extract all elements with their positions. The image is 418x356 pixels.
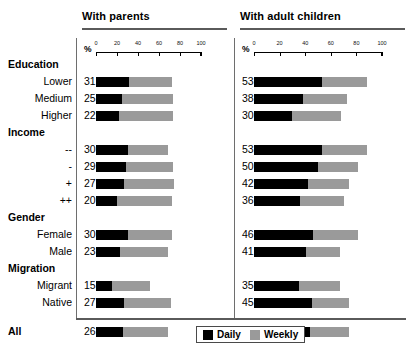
bar — [254, 281, 382, 291]
axis-unit-left: % — [84, 44, 92, 54]
bar — [254, 145, 382, 155]
bar-segment-weekly — [123, 327, 168, 337]
bar-value-label: 30 — [84, 228, 96, 240]
bar-value-label: 25 — [84, 92, 96, 104]
bar-segment-daily — [254, 94, 303, 104]
bar-segment-weekly — [318, 162, 358, 172]
bar — [254, 196, 382, 206]
axis-line — [96, 52, 201, 53]
row-label: Lower — [0, 75, 72, 87]
bar-segment-weekly — [124, 179, 173, 189]
bar — [254, 162, 382, 172]
bar — [96, 298, 201, 308]
bar-segment-daily — [96, 247, 120, 257]
x-axis-left: 020406080100 — [96, 40, 201, 58]
bar-value-label: 15 — [84, 279, 96, 291]
bar-segment-weekly — [308, 179, 349, 189]
row-group-label: Income — [8, 126, 98, 138]
bar-segment-daily — [96, 298, 124, 308]
stacked-bar-chart: With parents With adult children % % 020… — [0, 0, 418, 356]
bar-value-label: 31 — [84, 75, 96, 87]
bar-segment-daily — [254, 298, 312, 308]
panel-separator-left — [76, 38, 77, 318]
bar — [254, 77, 382, 87]
bar-value-label: 36 — [242, 194, 254, 206]
axis-tick-label: 40 — [135, 40, 141, 46]
bar-segment-daily — [96, 94, 122, 104]
bar-segment-daily — [254, 162, 318, 172]
axis-tick-label: 20 — [277, 40, 283, 46]
bar-value-label: 23 — [84, 245, 96, 257]
bar-segment-weekly — [120, 247, 168, 257]
bar-segment-daily — [254, 111, 292, 121]
bar — [254, 111, 382, 121]
bar-segment-daily — [254, 196, 300, 206]
bar-value-label: 26 — [84, 325, 96, 337]
bar-segment-weekly — [303, 94, 348, 104]
bar — [96, 77, 201, 87]
axis-tick-label: 40 — [302, 40, 308, 46]
bar — [96, 145, 201, 155]
row-label: - — [0, 160, 72, 172]
axis-tick — [159, 52, 160, 56]
bar-segment-daily — [254, 247, 306, 257]
bar-segment-daily — [96, 162, 126, 172]
panel-rule-right — [240, 28, 405, 30]
axis-tick — [201, 52, 202, 56]
axis-tick — [382, 52, 383, 56]
bar-segment-weekly — [322, 145, 367, 155]
row-label: ++ — [0, 194, 72, 206]
bar — [96, 327, 201, 337]
bar-segment-daily — [96, 196, 117, 206]
bar — [254, 298, 382, 308]
row-label: Higher — [0, 109, 72, 121]
panel-separator-right — [234, 38, 235, 318]
bar-segment-daily — [254, 281, 299, 291]
bar-value-label: 27 — [84, 177, 96, 189]
bar — [96, 162, 201, 172]
bottom-rule — [76, 318, 406, 320]
bar-segment-weekly — [310, 327, 348, 337]
row-group-label: Education — [8, 58, 98, 70]
row-group-label: Gender — [8, 211, 98, 223]
row-label: Male — [0, 245, 72, 257]
bar — [96, 111, 201, 121]
axis-tick-label: 20 — [114, 40, 120, 46]
legend: Daily Weekly — [196, 326, 305, 343]
bar-segment-weekly — [117, 196, 172, 206]
bar-value-label: 53 — [242, 143, 254, 155]
bar — [254, 94, 382, 104]
row-label: -- — [0, 143, 72, 155]
bar — [96, 179, 201, 189]
axis-tick — [117, 52, 118, 56]
axis-tick — [331, 52, 332, 56]
axis-tick — [254, 52, 255, 56]
bar-segment-weekly — [312, 298, 349, 308]
bar — [96, 196, 201, 206]
axis-tick-label: 60 — [328, 40, 334, 46]
legend-item-daily: Daily — [203, 329, 241, 340]
bar — [96, 230, 201, 240]
axis-tick-label: 80 — [177, 40, 183, 46]
row-label: Migrant — [0, 279, 72, 291]
bar-segment-daily — [254, 179, 308, 189]
legend-swatch-daily — [203, 330, 213, 340]
axis-tick-label: 100 — [196, 40, 205, 46]
bar-value-label: 20 — [84, 194, 96, 206]
bar-value-label: 38 — [242, 92, 254, 104]
row-label: Native — [0, 296, 72, 308]
axis-tick-label: 0 — [252, 40, 255, 46]
bar — [96, 247, 201, 257]
row-group-label: Migration — [8, 262, 98, 274]
axis-tick-label: 100 — [377, 40, 386, 46]
bar-segment-weekly — [128, 230, 172, 240]
panel-rule-left — [82, 28, 227, 30]
bar-segment-daily — [96, 111, 119, 121]
legend-label-daily: Daily — [217, 329, 241, 340]
bar-segment-daily — [254, 145, 322, 155]
axis-tick — [180, 52, 181, 56]
legend-item-weekly: Weekly — [250, 329, 298, 340]
bar-segment-daily — [254, 230, 313, 240]
row-label: Medium — [0, 92, 72, 104]
bar-segment-weekly — [129, 77, 172, 87]
